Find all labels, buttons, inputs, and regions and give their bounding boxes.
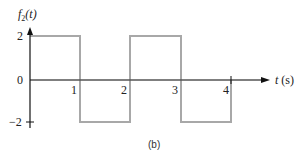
x-tick-label-3: 3 [172, 84, 178, 96]
chart-canvas [0, 0, 300, 158]
y-axis-label: f2(t) [18, 8, 37, 23]
x-axis-label: t (s) [275, 74, 294, 86]
x-tick-label-2: 2 [121, 84, 127, 96]
y-tick-label-minus-2: −2 [9, 116, 22, 128]
figure-caption: (b) [148, 140, 160, 150]
x-axis-arrow-icon [261, 77, 270, 83]
y-tick-label-2: 2 [17, 30, 23, 42]
x-tick-label-1: 1 [71, 84, 77, 96]
signal-waveform [30, 36, 231, 122]
x-tick-label-4: 4 [223, 84, 229, 96]
y-axis-arrow-icon [27, 27, 33, 35]
y-tick-label-0: 0 [17, 74, 23, 86]
